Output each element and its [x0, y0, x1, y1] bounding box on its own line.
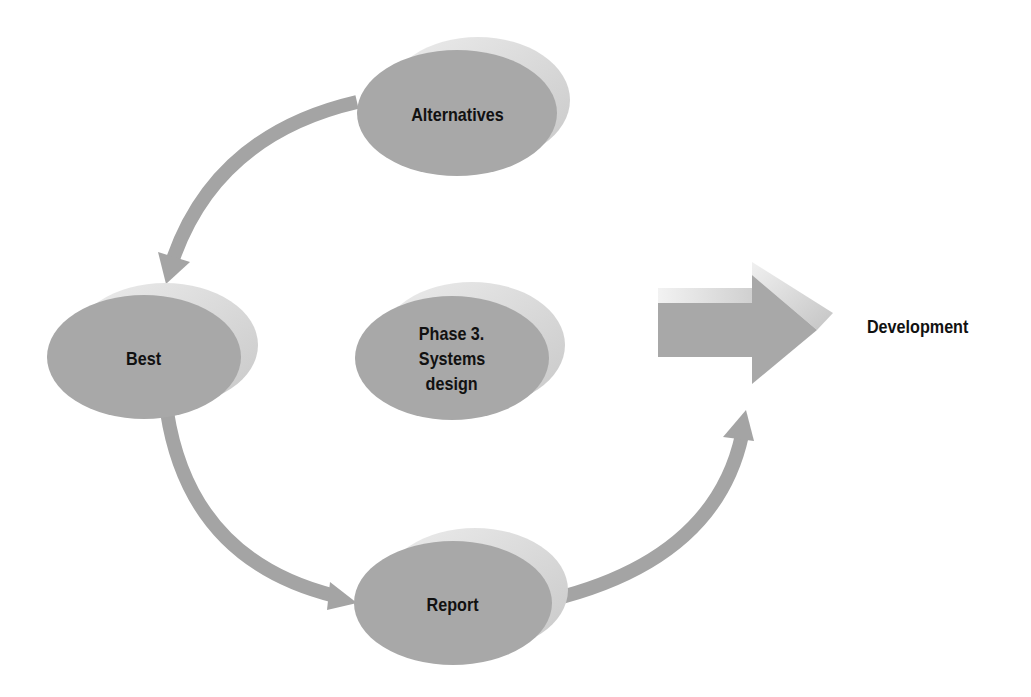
node-center: Phase 3. Systems design [355, 318, 549, 398]
output-development-label: Development [867, 314, 968, 339]
arrow-alternatives-to-best [158, 102, 357, 284]
arrow-best-to-report [167, 412, 357, 610]
center-label-line-2: Systems [419, 346, 485, 371]
node-best: Best [47, 344, 241, 372]
center-label-line-3: design [426, 371, 478, 396]
center-label-line-1: Phase 3. [419, 321, 485, 346]
node-alternatives-label: Alternatives [411, 102, 503, 127]
node-report: Report [354, 590, 552, 618]
node-report-label: Report [427, 592, 479, 617]
node-alternatives: Alternatives [357, 100, 557, 128]
node-best-label: Best [126, 346, 161, 371]
output-development: Development [850, 312, 985, 340]
arrow-report-to-development [550, 410, 754, 600]
block-arrow-to-development [658, 262, 833, 384]
